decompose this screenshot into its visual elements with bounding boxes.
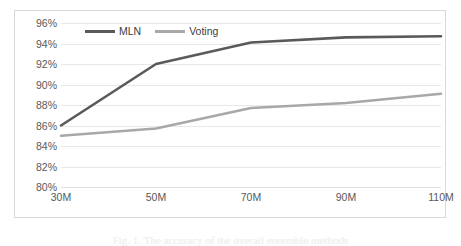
figure-caption: Fig. 1. The accuracy of the overall ense… [0, 234, 461, 246]
line-chart: 96% 94% 92% 90% 88% 86% 84% 82% 80% 30M5… [14, 10, 446, 218]
y-axis: 96% 94% 92% 90% 88% 86% 84% 82% 80% [15, 11, 61, 217]
y-axis-tick: 84% [36, 140, 57, 152]
y-axis-tick: 96% [36, 17, 57, 29]
gridline [61, 187, 441, 188]
x-axis-tick: 30M [51, 191, 71, 203]
legend-item-mln[interactable]: MLN [85, 25, 141, 37]
y-axis-tick: 92% [36, 58, 57, 70]
figure-caption-text: Fig. 1. The accuracy of the overall ense… [113, 234, 349, 246]
x-axis-tick: 110M [428, 191, 454, 203]
legend-swatch-voting [155, 30, 185, 33]
legend-label-mln: MLN [119, 25, 141, 37]
y-axis-tick: 82% [36, 161, 57, 173]
y-axis-tick: 90% [36, 79, 57, 91]
x-axis-tick: 90M [336, 191, 356, 203]
series-lines [61, 23, 441, 187]
x-axis: 30M50M70M90M110M [61, 189, 441, 209]
y-axis-tick: 88% [36, 99, 57, 111]
series-line-mln [61, 36, 441, 125]
legend: MLN Voting [85, 25, 218, 37]
legend-item-voting[interactable]: Voting [155, 25, 218, 37]
y-axis-tick: 94% [36, 38, 57, 50]
series-line-voting [61, 94, 441, 136]
legend-label-voting: Voting [189, 25, 218, 37]
plot-area [61, 23, 441, 187]
x-axis-tick: 50M [146, 191, 166, 203]
legend-swatch-mln [85, 30, 115, 33]
x-axis-tick: 70M [241, 191, 261, 203]
y-axis-tick: 86% [36, 120, 57, 132]
